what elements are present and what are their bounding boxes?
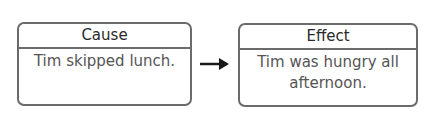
- cause-text: Tim skipped lunch.: [19, 49, 190, 72]
- effect-text: Tim was hungry all afternoon.: [240, 50, 416, 94]
- cause-box: Cause Tim skipped lunch.: [17, 22, 192, 106]
- effect-box: Effect Tim was hungry all afternoon.: [238, 23, 418, 107]
- arrow-right-icon: [199, 57, 231, 71]
- cause-header: Cause: [19, 24, 190, 49]
- effect-header: Effect: [240, 25, 416, 50]
